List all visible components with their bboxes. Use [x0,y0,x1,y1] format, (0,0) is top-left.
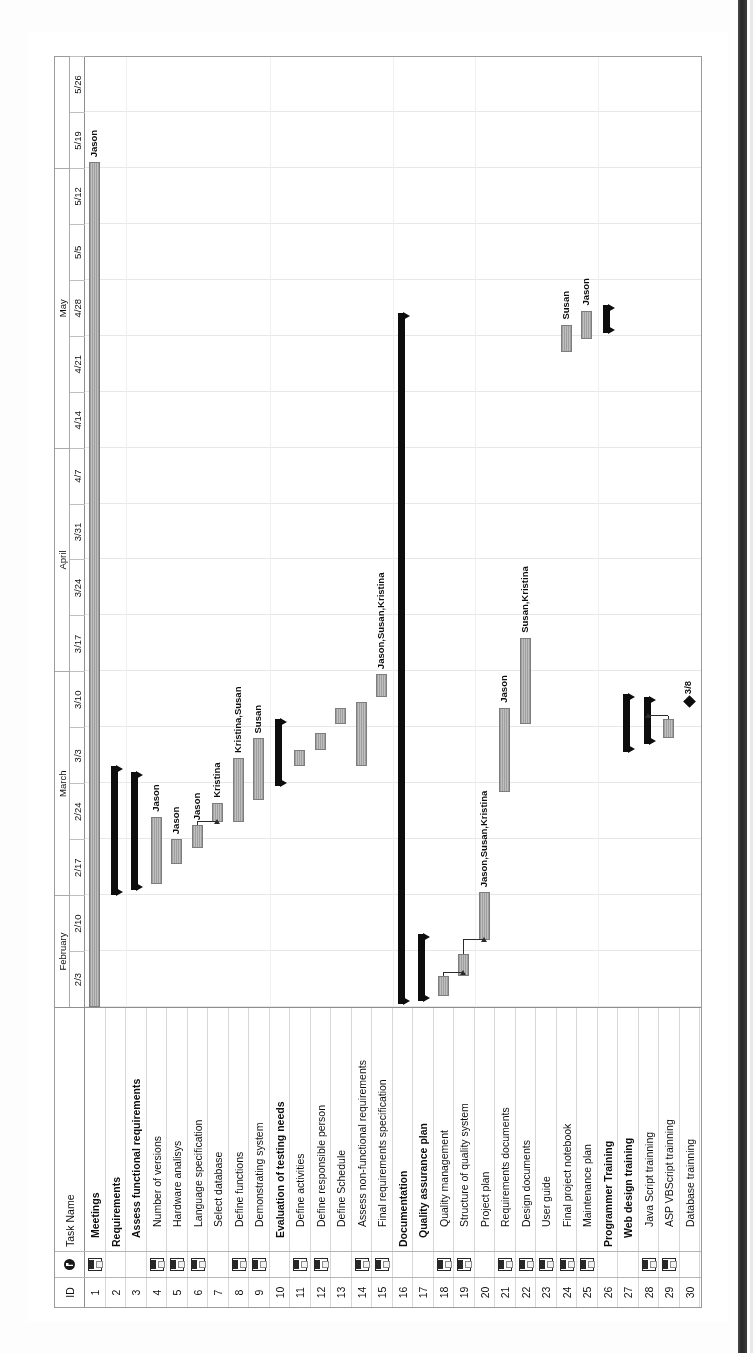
note-indicator-icon[interactable] [641,1258,655,1271]
table-cell-task-name[interactable]: Database trainning [679,1008,700,1251]
gantt-task-bar[interactable] [171,839,182,864]
note-indicator-icon[interactable] [518,1258,532,1271]
note-indicator-icon[interactable] [293,1258,307,1271]
gantt-summary-bar[interactable] [131,772,138,889]
gantt-summary-bar[interactable] [274,718,281,785]
table-cell-id: 26 [597,1278,618,1307]
gantt-resource-label: Jason [580,278,591,305]
gantt-task-bar[interactable] [355,702,366,766]
timescale-week-label: 2/3 [70,951,85,1007]
note-indicator-icon[interactable] [559,1258,573,1271]
gantt-task-bar[interactable] [560,324,571,352]
table-cell-task-name[interactable]: Assess non-functional requirements [351,1008,372,1251]
table-cell-task-name[interactable]: ASP VBScript trainning [659,1008,680,1251]
table-cell-task-name[interactable]: Define Schedule [331,1008,352,1251]
gantt-task-bar[interactable] [663,718,674,738]
gantt-summary-bar[interactable] [602,304,609,332]
gantt-summary-bar[interactable] [643,696,650,744]
gantt-task-bar[interactable] [89,162,100,1007]
gantt-task-bar[interactable] [294,749,305,766]
note-indicator-icon[interactable] [662,1258,676,1271]
timescale-week-label: 4/7 [70,447,85,503]
gantt-resource-label: Susan,Kristina [518,566,529,633]
table-cell-task-name[interactable]: Design documents [515,1008,536,1251]
timeline-band-line [126,57,127,1007]
gantt-summary-bar[interactable] [418,934,425,1001]
row-divider [166,1252,167,1277]
gantt-summary-bar[interactable] [397,313,404,1004]
note-indicator-icon[interactable] [539,1258,553,1271]
gantt-task-bar[interactable] [150,816,161,883]
table-cell-task-name[interactable]: Number of versions [146,1008,167,1251]
note-indicator-icon[interactable] [498,1258,512,1271]
table-cell-task-name[interactable]: Documentation [392,1008,413,1251]
gantt-summary-bar[interactable] [110,766,117,895]
gantt-task-bar[interactable] [191,825,202,847]
table-cell-id: 11 [290,1278,311,1307]
table-cell-task-name[interactable]: Final requirements specification [372,1008,393,1251]
table-cell-task-name[interactable]: Define functions [228,1008,249,1251]
table-cell-task-name[interactable]: Java Script trainning [638,1008,659,1251]
gantt-task-bar[interactable] [232,758,243,822]
table-cell-task-name[interactable]: Select database [208,1008,229,1251]
note-indicator-icon[interactable] [231,1258,245,1271]
table-cell-id: 6 [187,1278,208,1307]
table-cell-task-name[interactable]: Evaluation of testing needs [269,1008,290,1251]
table-cell-task-name[interactable]: Hardware analisys [167,1008,188,1251]
table-cell-task-name[interactable]: Language specification [187,1008,208,1251]
note-indicator-icon[interactable] [190,1258,204,1271]
table-cell-task-name[interactable]: Final project notebook [556,1008,577,1251]
row-divider [617,1252,618,1277]
table-cell-task-name[interactable]: Assess functional requirements [126,1008,147,1251]
table-cell-task-name[interactable]: Programmer Training [597,1008,618,1251]
table-cell-task-name[interactable]: Define activities [290,1008,311,1251]
table-cell-task-name[interactable]: User guide [536,1008,557,1251]
note-indicator-icon[interactable] [375,1258,389,1271]
gantt-bars-area[interactable]: JasonJasonJasonJasonKristinaKristina,Sus… [85,57,701,1007]
gantt-task-bar[interactable] [437,976,448,996]
table-cell-task-name[interactable]: Quality assurance plan [413,1008,434,1251]
gantt-task-bar[interactable] [478,892,489,940]
gantt-task-bar[interactable] [499,707,510,791]
column-header-task-name: Task Name [55,1194,85,1247]
gantt-task-bar[interactable] [376,674,387,696]
note-indicator-icon[interactable] [580,1258,594,1271]
note-indicator-icon[interactable] [354,1258,368,1271]
task-table[interactable]: ID 1234567891011121314151617181920212223… [55,1007,701,1307]
table-cell-id: 3 [126,1278,147,1307]
table-cell-id: 10 [269,1278,290,1307]
note-indicator-icon[interactable] [88,1258,102,1271]
table-cell-task-name[interactable]: Project plan [474,1008,495,1251]
table-cell-task-name[interactable]: Meetings [85,1008,106,1251]
table-cell-id: 28 [638,1278,659,1307]
gantt-summary-bar[interactable] [623,693,630,752]
gantt-task-bar[interactable] [581,310,592,338]
timescale-week-label: 2/24 [70,783,85,839]
gantt-milestone-marker[interactable] [682,695,695,708]
table-cell-task-name[interactable]: Structure of quality system [454,1008,475,1251]
table-cell-task-name[interactable]: Quality management [433,1008,454,1251]
table-cell-id: 27 [618,1278,639,1307]
table-cell-id: 9 [249,1278,270,1307]
table-cell-task-name[interactable]: Requirements documents [495,1008,516,1251]
note-indicator-icon[interactable] [457,1258,471,1271]
gantt-task-bar[interactable] [519,637,530,724]
row-divider [473,1252,474,1277]
table-cell-task-name[interactable]: Demonstrating system [249,1008,270,1251]
note-indicator-icon[interactable] [436,1258,450,1271]
table-cell-task-name[interactable]: Requirements [105,1008,126,1251]
gantt-task-bar[interactable] [253,738,264,800]
row-divider [104,1252,105,1277]
gantt-task-bar[interactable] [314,732,325,749]
table-cell-task-name[interactable]: Define responsible person [310,1008,331,1251]
table-cell-id: 7 [208,1278,229,1307]
note-indicator-icon[interactable] [252,1258,266,1271]
table-cell-task-name[interactable]: Web design training [618,1008,639,1251]
row-divider [371,1252,372,1277]
table-cell-task-name[interactable]: Maintenance plan [577,1008,598,1251]
note-indicator-icon[interactable] [149,1258,163,1271]
note-indicator-icon[interactable] [170,1258,184,1271]
note-indicator-icon[interactable] [313,1258,327,1271]
timeline-band-line [597,57,598,1007]
gantt-task-bar[interactable] [335,707,346,724]
